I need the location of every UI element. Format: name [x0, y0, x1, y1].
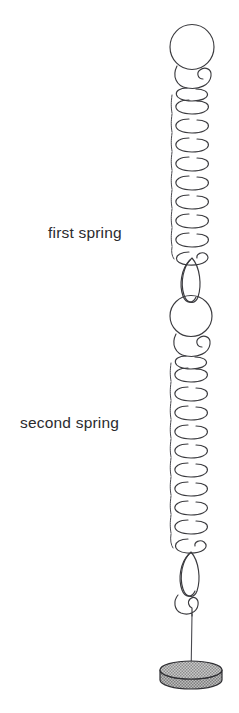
mass-disk — [160, 661, 222, 689]
bottom-connector-eye — [180, 552, 199, 596]
second-spring-coils — [170, 356, 207, 553]
first-spring-label: first spring — [48, 224, 122, 241]
spring-diagram-figure: first spring second spring — [0, 0, 239, 713]
second-spring-top-ring — [170, 296, 212, 357]
second-spring-label: second spring — [20, 414, 119, 431]
bottom-hook-icon — [175, 595, 198, 616]
first-spring-coils — [171, 88, 208, 265]
top-loop-icon — [170, 25, 214, 89]
figure-canvas: first spring second spring — [0, 0, 239, 713]
